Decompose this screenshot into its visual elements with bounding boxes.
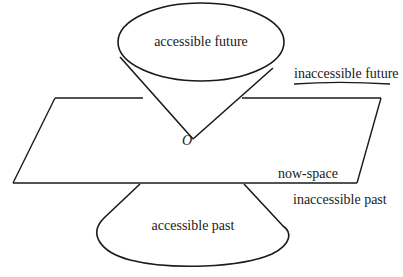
future-cone (118, 3, 284, 139)
accessible-past-label: accessible past (152, 218, 235, 233)
light-cone-diagram: accessible future inaccessible future O … (0, 0, 403, 277)
inaccessible-future-underline (294, 83, 390, 85)
origin-label: O (182, 133, 192, 148)
now-space-label: now-space (278, 166, 338, 181)
diagram-canvas: accessible future inaccessible future O … (0, 0, 403, 277)
accessible-future-label: accessible future (154, 34, 248, 49)
inaccessible-past-label: inaccessible past (293, 192, 387, 207)
inaccessible-future-label: inaccessible future (294, 66, 399, 81)
